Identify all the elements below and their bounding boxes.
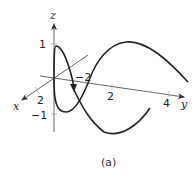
figure-3d-curve: z 1 −1 x 2 −2 2 4 y (a) bbox=[0, 0, 196, 180]
y-tick-label-2: 2 bbox=[107, 90, 114, 103]
z-axis-label: z bbox=[49, 9, 56, 22]
y-axis-label: y bbox=[180, 98, 188, 111]
z-tick-label-neg1: −1 bbox=[31, 109, 47, 122]
y-tick-label-neg2: −2 bbox=[75, 71, 91, 84]
y-tick-label-4: 4 bbox=[163, 97, 170, 110]
figure-caption: (a) bbox=[101, 156, 116, 169]
z-tick-label-1: 1 bbox=[39, 38, 46, 51]
x-axis-label: x bbox=[13, 100, 20, 113]
x-tick-2 bbox=[35, 87, 39, 93]
curve-direction-arrow bbox=[70, 84, 77, 92]
x-tick-label-2: 2 bbox=[37, 94, 44, 107]
